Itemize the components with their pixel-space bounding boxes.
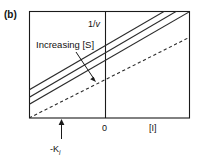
y-axis-label: 1/v (88, 19, 101, 29)
ki-intercept-label-main: -K (50, 144, 59, 154)
origin-tick-label: 0 (102, 123, 107, 133)
ki-intercept-label-subscript: i (59, 149, 61, 156)
series-line-solid-1 (29, 8, 196, 105)
dixon-plot: 1/v Increasing [S] 0 [I] -Ki (0, 0, 201, 159)
ki-intercept-label: -Ki (50, 144, 61, 156)
y-axis-label-symbol: v (96, 19, 101, 29)
figure-panel: (b) 1/v Increasing [S] (0, 0, 201, 159)
increasing-s-label: Increasing [S] (36, 39, 94, 50)
x-axis-label: [I] (149, 123, 157, 133)
plot-frame (30, 12, 190, 119)
data-series-group (29, 8, 196, 118)
ki-arrow (59, 119, 65, 139)
